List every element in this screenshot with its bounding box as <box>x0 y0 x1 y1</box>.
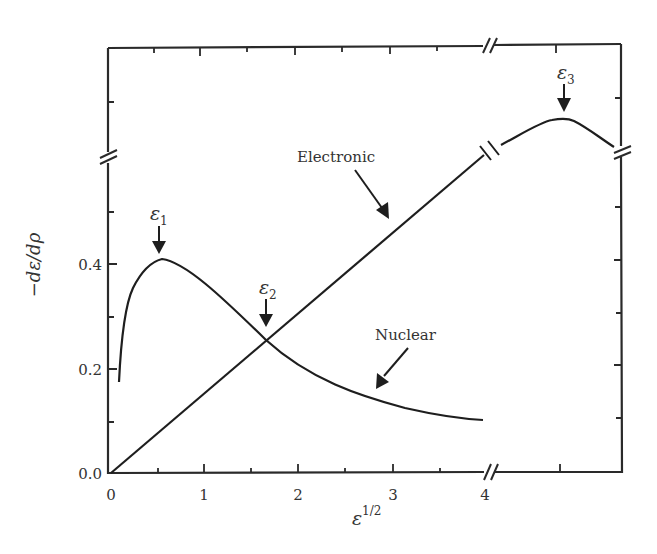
svg-text:1/2: 1/2 <box>362 504 381 518</box>
electronic-label: Electronic <box>297 148 375 166</box>
eps2-label: ε 2 <box>259 276 277 302</box>
svg-text:2: 2 <box>269 288 277 302</box>
y-tick-labels: 0.0 0.2 0.4 <box>78 256 102 483</box>
x-tick-labels: 0 1 2 3 4 <box>106 486 490 504</box>
y-tick-0.4: 0.4 <box>78 256 102 274</box>
annotation-arrows <box>152 84 571 389</box>
eps1-arrowhead-icon <box>152 241 166 254</box>
nuclear-label-arrowhead-icon <box>376 373 389 389</box>
electronic-curve-after-break <box>501 119 614 147</box>
electronic-curve <box>111 155 484 473</box>
x-tick-0: 0 <box>106 486 116 504</box>
y-tick-0.2: 0.2 <box>78 361 102 379</box>
svg-text:1: 1 <box>160 214 168 228</box>
x-tick-2: 2 <box>293 486 303 504</box>
svg-text:3: 3 <box>567 73 575 87</box>
svg-text:ε: ε <box>557 61 567 83</box>
x-tick-1: 1 <box>199 486 209 504</box>
svg-text:ε: ε <box>259 276 269 298</box>
svg-text:ε: ε <box>150 202 160 224</box>
eps3-arrowhead-icon <box>557 98 571 112</box>
y-axis-label: −dε/dρ <box>23 232 44 297</box>
electronic-label-arrowhead-icon <box>376 202 389 219</box>
eps2-arrowhead-icon <box>259 314 273 327</box>
x-tick-4: 4 <box>480 486 490 504</box>
right-axis <box>621 44 622 473</box>
annotation-labels: ε 1 ε 2 ε 3 Electronic Nuclear <box>150 61 575 344</box>
x-tick-3: 3 <box>388 486 398 504</box>
eps1-label: ε 1 <box>150 202 168 228</box>
nuclear-label-arrow-icon <box>384 348 408 376</box>
y-tick-0.0: 0.0 <box>78 465 102 483</box>
top-axis <box>108 44 621 48</box>
electronic-label-arrow-icon <box>355 170 382 208</box>
svg-text:ε: ε <box>352 507 362 529</box>
stopping-power-chart: 0 1 2 3 4 0.0 0.2 0.4 ε 1/2 −dε/dρ <box>0 0 657 554</box>
bottom-axis <box>108 472 622 473</box>
eps3-label: ε 3 <box>557 61 575 87</box>
x-axis-label: ε 1/2 <box>352 504 381 529</box>
nuclear-label: Nuclear <box>375 326 437 344</box>
